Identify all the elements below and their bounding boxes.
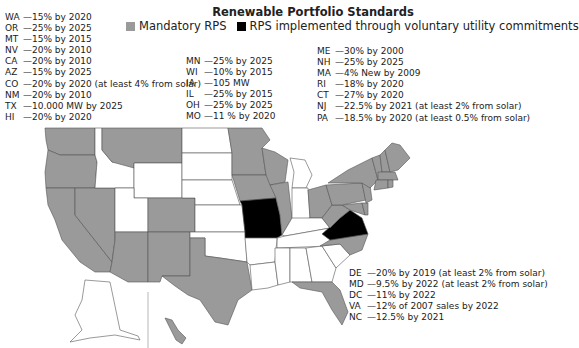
note-row: PA—18.5% by 2020 (at least 0.5% from sol… [317,113,530,124]
state-hi [165,318,186,344]
note-row: AZ—15% by 2025 [5,67,201,78]
note-row: IA—105 MW [186,78,276,89]
note-text: —15% by 2020 [23,12,92,23]
note-row: DE—20% by 2019 (at least 2% from solar) [349,268,548,279]
note-row: MN—25% by 2025 [186,56,276,67]
note-row: CA—20% by 2010 [5,56,201,67]
state-ri [388,180,393,188]
notes-southeast: DE—20% by 2019 (at least 2% from solar) … [349,268,548,323]
note-state: CA [5,56,23,67]
state-sd [182,153,232,180]
note-row: ME—30% by 2000 [317,46,530,57]
state-in [292,188,310,222]
note-state: OH [186,100,204,111]
note-text: —11% by 2022 [367,290,436,301]
note-text: —25% by 2025 [204,100,273,111]
note-row: TX—10.000 MW by 2025 [5,101,201,112]
state-ma [378,172,398,180]
note-state: PA [317,113,335,124]
note-row: HI—20% by 2020 [5,112,201,123]
state-pa [326,183,366,205]
state-az [110,232,148,282]
state-wa [45,128,95,155]
state-ms [275,248,290,285]
note-state: WI [186,67,204,78]
note-row: CT—27% by 2020 [317,90,530,101]
note-state: WA [5,12,23,23]
state-la [250,262,278,290]
note-row: MA—4% New by 2009 [317,68,530,79]
note-row: WI—10% by 2015 [186,67,276,78]
note-text: —20% by 2020 (at least 4% from solar) [23,79,201,90]
note-text: —20% by 2010 [23,56,92,67]
state-co [148,198,195,232]
note-row: NH—25% by 2025 [317,57,530,68]
note-text: —30% by 2000 [335,46,404,57]
note-text: —25% by 2025 [204,56,273,67]
note-row: WA—15% by 2020 [5,12,201,23]
state-or [45,150,97,188]
note-state: IA [186,78,204,89]
state-mi [290,158,312,188]
state-ar [245,238,277,265]
note-state: MD [349,279,367,290]
note-row: MT—15% by 2015 [5,34,201,45]
note-state: CT [317,90,335,101]
notes-west: WA—15% by 2020 OR—25% by 2025 MT—15% by … [5,12,201,123]
state-me [385,143,410,172]
note-row: NJ—22.5% by 2021 (at least 2% from solar… [317,101,530,112]
note-row: VA—12% of 2007 sales by 2022 [349,301,548,312]
state-mo [240,198,282,238]
note-row: RI—18% by 2020 [317,79,530,90]
note-state: OR [5,23,23,34]
note-text: —10% by 2015 [204,67,273,78]
note-state: ME [317,46,335,57]
note-text: —22.5% by 2021 (at least 2% from solar) [335,101,522,112]
note-row: DC—11% by 2022 [349,290,548,301]
note-state: NJ [317,101,335,112]
note-text: —20% by 2010 [23,90,92,101]
state-ks [195,205,245,232]
note-text: —9.5% by 2022 (at least 2% from solar) [367,279,548,290]
note-state: NC [349,312,367,323]
state-ak [70,280,140,342]
note-state: NH [317,57,335,68]
note-text: —18% by 2020 [335,79,404,90]
note-state: DC [349,290,367,301]
state-nm [148,232,190,282]
note-state: NV [5,45,23,56]
note-state: MT [5,34,23,45]
note-text: —27% by 2020 [335,90,404,101]
note-state: HI [5,112,23,123]
note-state: NM [5,90,23,101]
note-text: —20% by 2010 [23,45,92,56]
note-state: AZ [5,67,23,78]
note-state: VA [349,301,367,312]
note-text: —105 MW [204,78,250,89]
state-wy [134,163,182,198]
note-text: —25% by 2025 [23,23,92,34]
note-state: CO [5,79,23,90]
note-row: IL—25% by 2015 [186,89,276,100]
note-row: NM—20% by 2010 [5,90,201,101]
note-text: —18.5% by 2020 (at least 0.5% from solar… [335,113,530,124]
note-text: —25% by 2015 [204,89,273,100]
note-text: —4% New by 2009 [335,68,420,79]
note-state: DE [349,268,367,279]
note-text: —15% by 2015 [23,34,92,45]
note-text: —11 % by 2020 [204,111,276,122]
notes-northeast: ME—30% by 2000 NH—25% by 2025 MA—4% New … [317,46,530,124]
note-row: MO—11 % by 2020 [186,111,276,122]
note-row: CO—20% by 2020 (at least 4% from solar) [5,79,201,90]
note-text: —10.000 MW by 2025 [23,101,123,112]
note-text: —20% by 2019 (at least 2% from solar) [367,268,545,279]
note-row: MD—9.5% by 2022 (at least 2% from solar) [349,279,548,290]
note-text: —12% of 2007 sales by 2022 [367,301,499,312]
note-state: IL [186,89,204,100]
note-text: —15% by 2025 [23,67,92,78]
note-row: NC—12.5% by 2021 [349,312,548,323]
note-row: OR—25% by 2025 [5,23,201,34]
note-text: —25% by 2025 [335,57,404,68]
note-state: TX [5,101,23,112]
notes-central: MN—25% by 2025 WI—10% by 2015 IA—105 MW … [186,56,276,123]
